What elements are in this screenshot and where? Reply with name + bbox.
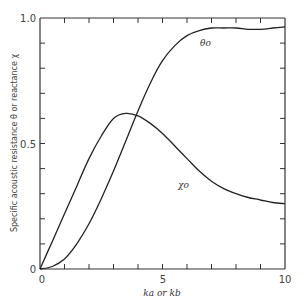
x-tick-label-10: 10	[279, 274, 292, 285]
y-axis-ticks	[40, 43, 285, 244]
y-axis-title: Specific acoustic resistance θ or reacta…	[10, 54, 19, 232]
x-tick-label-5: 5	[160, 274, 166, 285]
theta-curve	[40, 27, 285, 269]
y-tick-label-0: 0	[30, 264, 36, 275]
chi-curve-label: χo	[177, 180, 189, 190]
plot-frame	[40, 18, 285, 269]
y-tick-label-05: 0.5	[20, 139, 36, 150]
acoustic-impedance-chart: 1.0 0.5 0 0 5 10 ka or kb Specific acous…	[0, 0, 304, 304]
y-tick-label-1: 1.0	[20, 13, 36, 24]
theta-curve-label: θo	[200, 38, 211, 48]
x-tick-label-0: 0	[39, 274, 45, 285]
chi-curve	[40, 113, 285, 269]
x-axis-ticks	[65, 18, 261, 269]
x-axis-title: ka or kb	[143, 288, 181, 298]
